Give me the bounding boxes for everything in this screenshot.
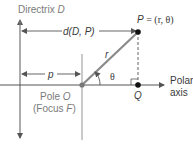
directrix-label: Directrix D <box>18 4 65 15</box>
polar-conic-diagram: Directrix D d(D, P) p r θ P = (r, θ) Q P… <box>0 0 193 147</box>
theta-label: θ <box>110 71 115 82</box>
pole-label: Pole O <box>40 91 71 102</box>
pole-point <box>79 82 84 87</box>
p-label: p <box>47 69 54 80</box>
distance-d-label: d(D, P) <box>63 26 95 37</box>
point-p-label: P = (r, θ) <box>137 14 174 26</box>
point-p <box>135 29 141 35</box>
polar-axis-label-line1: Polar <box>170 75 193 86</box>
q-label: Q <box>134 90 142 101</box>
point-q <box>135 82 141 88</box>
polar-axis-label-line2: axis <box>170 87 188 98</box>
focus-label: (Focus F) <box>33 103 76 114</box>
r-label: r <box>105 49 109 60</box>
theta-arc <box>95 72 100 85</box>
